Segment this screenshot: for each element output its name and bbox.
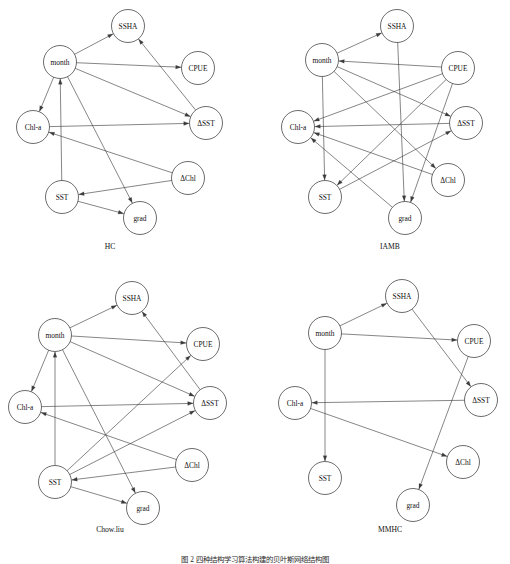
edge-CPUE-to-SST [337, 79, 446, 185]
arrowhead-dChl-to-Chl_a [314, 133, 320, 137]
edge-dChl-to-Chl_a [49, 132, 172, 172]
panel-caption-iamb: IAMB [350, 242, 430, 251]
node-mmhc-SST[interactable] [309, 462, 342, 495]
node-group: monthSSHACPUEΔSSTChl-aSSTgradΔChl [279, 280, 498, 522]
node-chowliu-Chl_a[interactable] [9, 391, 42, 424]
edge-month-to-CPUE [71, 336, 185, 343]
edge-SST-to-grad [78, 201, 124, 213]
node-hc-SSHA[interactable] [112, 10, 145, 43]
network-diagram-canvas: monthSSHACPUEΔSSTChl-aSSTgradΔChlmonthSS… [0, 0, 510, 564]
arrowhead-dSST-to-SSHA [142, 312, 147, 317]
node-mmhc-SSHA[interactable] [386, 280, 419, 313]
arrowhead-SST-to-grad [121, 500, 127, 504]
arrowhead-dSST-to-Chl_a [315, 125, 320, 129]
arrowhead-month-to-SST [323, 456, 327, 461]
edge-month-to-SSHA [340, 303, 387, 325]
node-hc-CPUE[interactable] [182, 52, 215, 85]
node-iamb-dSST[interactable] [450, 107, 483, 140]
edge-Chl_a-to-dSST [41, 403, 192, 406]
arrowhead-dChl-to-Chl_a [49, 132, 55, 136]
arrowhead-month-to-Chl_a [40, 106, 44, 112]
arrowhead-Chl_a-to-dSST [188, 402, 193, 406]
edge-SST-to-month [60, 79, 62, 180]
node-mmhc-month[interactable] [309, 317, 342, 350]
node-chowliu-SST[interactable] [39, 466, 72, 499]
panel-hc: monthSSHACPUEΔSSTChl-aSSTgradΔChl [17, 10, 223, 235]
edge-month-to-SSHA [337, 33, 381, 53]
edge-SSHA-to-grad [398, 42, 405, 200]
edge-month-to-SSHA [75, 34, 113, 54]
edge-SST-to-CPUE [67, 356, 190, 471]
edge-Chl_a-to-dChl [311, 408, 447, 456]
arrowhead-dChl-to-Chl_a [41, 413, 47, 417]
arrowhead-month-to-CPUE [452, 338, 457, 342]
node-chowliu-CPUE[interactable] [187, 328, 220, 361]
panel-caption-hc: HC [70, 242, 150, 251]
node-mmhc-CPUE[interactable] [458, 325, 491, 358]
node-iamb-SSHA[interactable] [381, 10, 414, 43]
arrowhead-month-to-SST [323, 175, 327, 180]
arrowhead-SSHA-to-grad [402, 196, 406, 201]
node-group: monthSSHACPUEΔSSTChl-aSSTgradΔChl [9, 282, 227, 525]
arrowhead-dChl-to-SST [79, 192, 84, 196]
arrowhead-month-to-grad [128, 197, 132, 202]
arrowhead-Chl_a-to-dSST [184, 122, 189, 126]
edge-SST-to-grad [71, 487, 127, 503]
node-hc-dSST[interactable] [190, 107, 223, 140]
edge-dChl-to-Chl_a [41, 413, 176, 460]
arrowhead-month-to-grad [131, 487, 135, 492]
arrowhead-month-to-CPUE [176, 65, 181, 69]
node-iamb-dChl[interactable] [432, 164, 465, 197]
node-mmhc-Chl_a[interactable] [279, 387, 312, 420]
node-chowliu-dSST[interactable] [194, 387, 227, 420]
edge-month-to-SSHA [70, 305, 117, 327]
arrowhead-SST-to-grad [118, 210, 124, 214]
node-mmhc-grad[interactable] [397, 489, 430, 522]
arrowhead-month-to-CPUE [181, 341, 186, 345]
arrowhead-month-to-SSHA [381, 303, 387, 307]
panel-mmhc: monthSSHACPUEΔSSTChl-aSSTgradΔChl [279, 280, 498, 522]
figure-caption: 图 2 四种结构学习算法构建的贝叶斯网络结构图 [0, 553, 510, 564]
panel-caption-mmhc: MMHC [350, 525, 430, 534]
node-hc-month[interactable] [44, 46, 77, 79]
arrowhead-month-to-dSST [445, 112, 451, 116]
edge-dChl-to-Chl_a [314, 133, 432, 175]
node-group: monthSSHACPUEΔSSTChl-aSSTgradΔChl [17, 10, 223, 235]
node-chowliu-grad[interactable] [127, 492, 160, 525]
node-group: monthSSHACPUEΔSSTChl-aSSTgradΔChl [282, 10, 483, 235]
arrowhead-CPUE-to-grad [419, 483, 423, 489]
edge-month-to-dSST [75, 68, 190, 116]
edge-dSST-to-Chl_a [312, 400, 464, 402]
node-hc-Chl_a[interactable] [17, 111, 50, 144]
node-iamb-month[interactable] [306, 44, 339, 77]
arrowhead-SST-to-dSST [445, 131, 450, 135]
edge-month-to-dSST [70, 342, 194, 397]
node-iamb-CPUE[interactable] [442, 52, 475, 85]
arrowhead-CPUE-to-grad [411, 196, 415, 202]
arrowhead-SST-to-month [53, 352, 57, 357]
node-hc-dChl[interactable] [172, 162, 205, 195]
arrowhead-month-to-SSHA [376, 33, 382, 37]
node-hc-grad[interactable] [124, 202, 157, 235]
node-chowliu-SSHA[interactable] [116, 282, 149, 315]
node-mmhc-dSST[interactable] [465, 384, 498, 417]
node-iamb-SST[interactable] [309, 181, 342, 214]
edge-month-to-SST [322, 76, 324, 179]
panel-iamb: monthSSHACPUEΔSSTChl-aSSTgradΔChl [282, 10, 483, 235]
arrowhead-CPUE-to-Chl_a [314, 118, 320, 122]
edge-month-to-Chl_a [40, 77, 54, 111]
node-iamb-Chl_a[interactable] [282, 111, 315, 144]
node-chowliu-dChl[interactable] [176, 449, 209, 482]
edge-dChl-to-SST [72, 467, 176, 480]
arrowhead-dChl-to-SST [72, 477, 77, 481]
edge-month-to-grad [62, 350, 135, 493]
node-chowliu-month[interactable] [39, 319, 72, 352]
edge-month-to-grad [68, 77, 133, 203]
arrowhead-SST-to-dSST [189, 411, 194, 415]
arrowhead-month-to-SSHA [111, 305, 117, 309]
arrowhead-dSST-to-Chl_a [312, 401, 317, 405]
node-hc-SST[interactable] [46, 181, 79, 214]
node-mmhc-dChl[interactable] [447, 446, 480, 479]
edge-month-to-Chl_a [32, 350, 49, 391]
node-iamb-grad[interactable] [389, 202, 422, 235]
